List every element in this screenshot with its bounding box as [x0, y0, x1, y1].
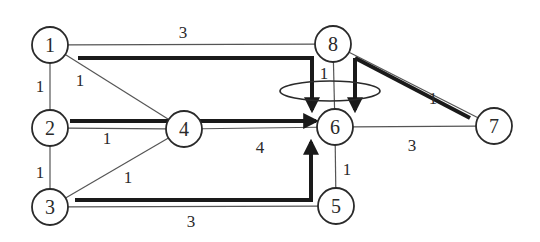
edge-weight-label: 3 [408, 136, 417, 155]
node-label: 5 [331, 195, 341, 217]
edge-weight-label: 1 [124, 168, 133, 187]
ellipse-layer [280, 81, 380, 101]
edge-3-4 [66, 138, 169, 198]
edge-4-6 [202, 127, 317, 129]
node-3: 3 [32, 189, 68, 225]
graph-svg: 12345678 311111431131 [0, 0, 540, 242]
node-5: 5 [318, 188, 354, 224]
node-label: 8 [328, 33, 338, 55]
path-8-to-7 [355, 58, 470, 118]
node-label: 7 [489, 115, 499, 137]
path-3-to-6 [75, 142, 311, 200]
edge-weight-label: 1 [36, 77, 45, 96]
node-label: 4 [179, 118, 189, 140]
edge-weight-label: 1 [76, 71, 85, 90]
edge-2-4 [68, 128, 166, 129]
graph-diagram: 12345678 311111431131 [0, 0, 540, 242]
edge-weight-label: 4 [256, 138, 265, 157]
edge-weight-label: 1 [320, 64, 329, 83]
edge-weight-label: 3 [179, 23, 188, 42]
edge-weight-label: 3 [187, 212, 196, 231]
node-6: 6 [317, 109, 353, 145]
edge-weight-label: 1 [103, 129, 112, 148]
node-label: 1 [45, 34, 55, 56]
node-2: 2 [32, 110, 68, 146]
edge-1-8 [68, 44, 315, 45]
node-4: 4 [166, 111, 202, 147]
edges-layer [50, 44, 478, 207]
node-label: 6 [330, 116, 340, 138]
nodes-layer: 12345678 [32, 26, 512, 225]
node-label: 3 [45, 196, 55, 218]
edge-6-5 [335, 145, 336, 188]
node-8: 8 [315, 26, 351, 62]
cut-ellipse [280, 81, 380, 101]
node-7: 7 [476, 108, 512, 144]
edge-weight-label: 1 [36, 163, 45, 182]
edge-3-5 [68, 206, 318, 207]
node-label: 2 [45, 117, 55, 139]
edge-8-6 [333, 62, 334, 109]
node-1: 1 [32, 27, 68, 63]
edge-6-7 [353, 126, 476, 127]
edge-weight-label: 1 [343, 160, 352, 179]
edge-weight-label: 1 [429, 89, 438, 108]
